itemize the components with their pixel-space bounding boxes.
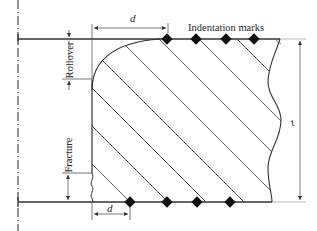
rollover-curve <box>92 39 160 90</box>
d-bottom-label: d <box>107 202 113 214</box>
indentation-marks-label: Indentation marks <box>188 22 264 33</box>
dimension-d-top <box>92 23 168 80</box>
rollover-label: Rollover <box>64 41 75 78</box>
break-line <box>268 39 281 202</box>
fracture-edge <box>91 173 93 202</box>
section-hatching <box>20 0 300 231</box>
fracture-label: Fracture <box>63 137 74 172</box>
d-top-label: d <box>130 12 136 24</box>
thickness-label: t <box>289 116 297 129</box>
shear-edge-diagram: d Indentation marks Rollover Fracture d <box>0 0 317 231</box>
